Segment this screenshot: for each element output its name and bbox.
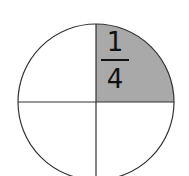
fraction-bar xyxy=(101,59,129,61)
fraction-numerator: 1 xyxy=(101,28,129,56)
fraction-circle-diagram xyxy=(0,0,189,176)
fraction-label: 1 4 xyxy=(101,28,129,93)
fraction-denominator: 4 xyxy=(101,65,129,93)
